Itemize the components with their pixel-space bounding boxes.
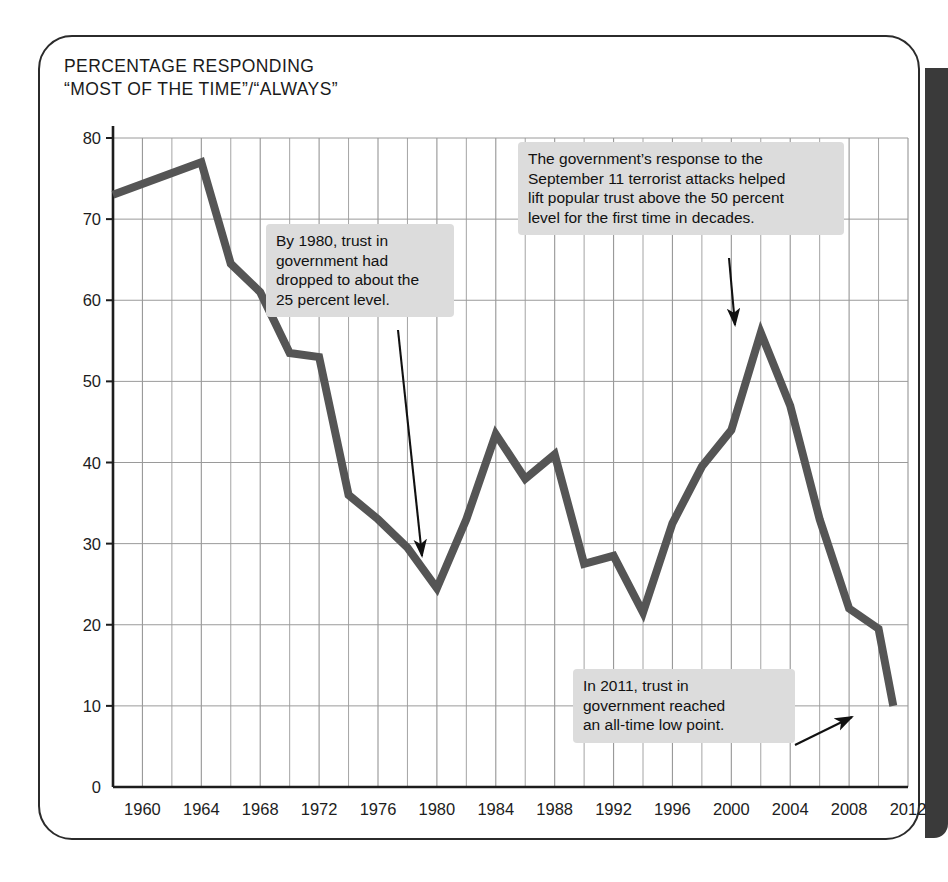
x-axis-tick-label: 2012: [890, 800, 927, 818]
figure-stage: PERCENTAGE RESPONDING “MOST OF THE TIME”…: [0, 0, 948, 882]
x-axis-tick-label: 1964: [183, 800, 220, 818]
x-axis-tick-label: 1968: [242, 800, 279, 818]
x-axis-tick-label: 2000: [713, 800, 750, 818]
y-axis-tick-label: 0: [92, 778, 101, 796]
x-axis-tick-label: 1992: [595, 800, 632, 818]
annotation-1980: By 1980, trust in government had dropped…: [266, 224, 454, 317]
x-axis-tick-label: 1980: [419, 800, 456, 818]
x-axis-tick-label: 1972: [301, 800, 338, 818]
x-axis-tick-label: 1984: [477, 800, 514, 818]
y-axis-tick-label: 20: [83, 616, 101, 634]
x-axis-tick-label: 1960: [124, 800, 161, 818]
x-axis-tick-label: 2008: [831, 800, 868, 818]
y-axis-tick-label: 40: [83, 454, 101, 472]
annotation-september-11: The government’s response to the Septemb…: [518, 142, 844, 235]
y-axis-tick-label: 50: [83, 372, 101, 390]
y-axis-tick-label: 80: [83, 129, 101, 147]
annotation-2011: In 2011, trust in government reached an …: [573, 669, 795, 743]
y-axis-tick-label: 30: [83, 535, 101, 553]
y-axis-tick-label: 70: [83, 210, 101, 228]
leader-arrow-september-11: [729, 258, 735, 325]
x-axis-tick-label: 2004: [772, 800, 809, 818]
line-chart: 0102030405060708019601964196819721976198…: [0, 0, 948, 882]
y-axis-tick-label: 10: [83, 697, 101, 715]
x-axis-tick-label: 1996: [654, 800, 691, 818]
leader-arrow-1980: [398, 330, 422, 556]
leader-arrow-2011: [795, 717, 852, 745]
x-axis-tick-label: 1976: [360, 800, 397, 818]
x-axis-tick-label: 1988: [536, 800, 573, 818]
y-axis-tick-label: 60: [83, 291, 101, 309]
